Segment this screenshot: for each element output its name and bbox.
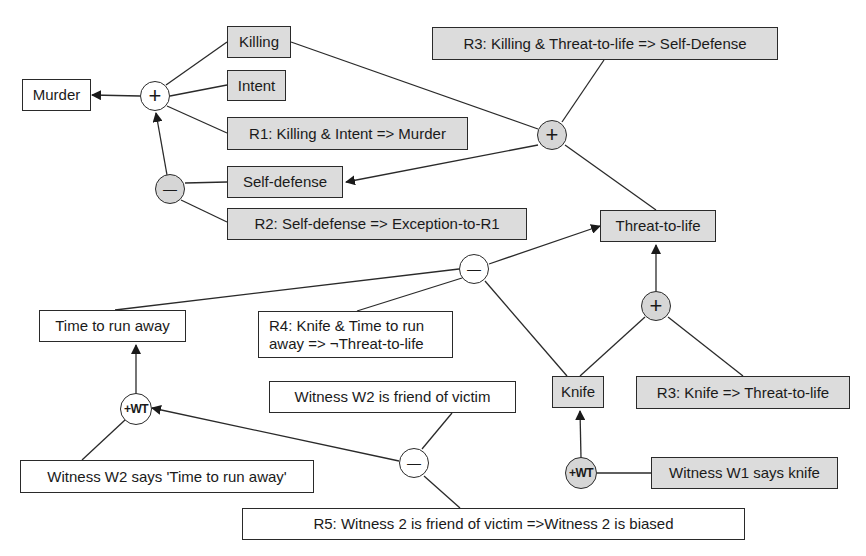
plus-operator-threat: + — [641, 291, 671, 321]
minus-operator-witness-bias: — — [399, 448, 429, 478]
node-rule-r5: R5: Witness 2 is friend of victim =>Witn… — [242, 508, 745, 540]
node-rule-r2: R2: Self-defense => Exception-to-R1 — [227, 208, 527, 240]
minus-operator-threat: — — [459, 254, 489, 284]
wt-operator-knife: +WT — [565, 457, 597, 489]
node-knife: Knife — [552, 376, 604, 408]
plus-icon: + — [650, 295, 663, 317]
plus-icon: + — [546, 124, 559, 146]
node-rule-r3-self-defense: R3: Killing & Threat-to-life => Self-Def… — [432, 27, 778, 60]
wt-operator-time-to-run: +WT — [120, 393, 152, 425]
minus-icon: — — [467, 262, 481, 276]
node-threat-to-life: Threat-to-life — [600, 210, 716, 242]
node-rule-r1: R1: Killing & Intent => Murder — [227, 117, 468, 150]
node-time-to-run-away: Time to run away — [39, 310, 186, 342]
witness-testimony-icon: +WT — [124, 402, 148, 416]
plus-operator-self-defense: + — [537, 120, 567, 150]
node-witness-w1-says: Witness W1 says knife — [651, 457, 838, 489]
witness-testimony-icon: +WT — [569, 466, 593, 480]
node-murder: Murder — [22, 79, 91, 111]
argument-diagram: Murder Killing Intent R1: Killing & Inte… — [0, 0, 866, 556]
plus-icon: + — [149, 85, 162, 107]
minus-icon: — — [163, 182, 177, 196]
node-killing: Killing — [227, 26, 291, 58]
plus-operator-murder: + — [140, 81, 170, 111]
node-self-defense: Self-defense — [227, 166, 343, 198]
edge-plus-to-murder — [92, 95, 140, 96]
node-intent: Intent — [227, 70, 286, 101]
node-rule-r3-knife: R3: Knife => Threat-to-life — [636, 376, 850, 409]
minus-operator-self-defense: — — [155, 174, 185, 204]
minus-icon: — — [407, 456, 421, 470]
node-witness-w2-friend: Witness W2 is friend of victim — [269, 381, 516, 413]
node-rule-r4: R4: Knife & Time to run away => ¬Threat-… — [258, 311, 453, 358]
node-witness-w2-says: Witness W2 says 'Time to run away' — [20, 460, 314, 493]
